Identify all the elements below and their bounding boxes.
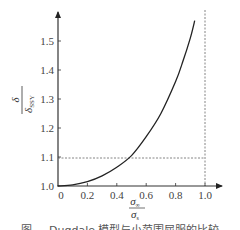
x-label-denominator: σs bbox=[131, 208, 139, 221]
chart: 1.01.11.21.31.41.5 00.20.40.60.81.0 δ δS… bbox=[0, 0, 240, 230]
y-tick-label: 1.2 bbox=[40, 122, 54, 134]
y-tick-label: 1.0 bbox=[40, 180, 54, 192]
x-tick-label: 0.4 bbox=[110, 189, 124, 201]
x-tick-label: 1.0 bbox=[198, 189, 212, 201]
x-tick-label: 0.6 bbox=[139, 189, 153, 201]
x-tick-label: 0 bbox=[58, 189, 64, 201]
x-tick-label: 0.2 bbox=[81, 189, 95, 201]
y-tick-label: 1.4 bbox=[40, 64, 54, 76]
x-tick-label: 0.8 bbox=[169, 189, 183, 201]
figure-caption: 图 ... Dugdale 模型与小范围屈服的比较 bbox=[0, 221, 240, 230]
y-label-numerator: δ bbox=[9, 97, 21, 103]
y-tick-label: 1.1 bbox=[40, 151, 54, 163]
y-tick-label: 1.5 bbox=[40, 35, 54, 47]
y-tick-label: 1.3 bbox=[40, 93, 54, 105]
y-label-denominator: δSSY bbox=[22, 95, 36, 113]
y-axis-label: δ δSSY bbox=[9, 86, 36, 114]
data-curve bbox=[58, 21, 195, 186]
